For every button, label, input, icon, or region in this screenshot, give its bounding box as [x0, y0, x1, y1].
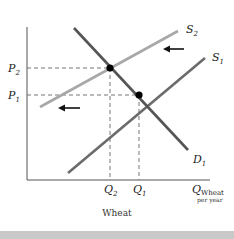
s2-label: S2 [186, 23, 199, 38]
left-arrow-icon [58, 105, 80, 112]
x-axis-unit: per year [197, 196, 223, 204]
equilibrium-point-2 [106, 64, 113, 71]
demand-curve-d1 [74, 28, 188, 150]
bottom-divider [0, 231, 234, 239]
x-axis-label: QWheat [192, 183, 224, 197]
q2-label: Q2 [104, 183, 118, 198]
equilibrium-point-1 [135, 91, 142, 98]
supply-demand-diagram: S2 S1 D1 P2 P1 Q2 Q1 QWheat per year Whe… [0, 0, 234, 239]
d1-label: D1 [192, 153, 206, 168]
diagram-title: Wheat [102, 208, 132, 218]
supply-curve-s1 [68, 58, 205, 173]
p2-label: P2 [7, 62, 20, 77]
p1-label: P1 [7, 89, 20, 104]
q1-label: Q1 [133, 183, 147, 198]
s1-label: S1 [212, 51, 224, 66]
left-arrow-icon [163, 46, 184, 53]
